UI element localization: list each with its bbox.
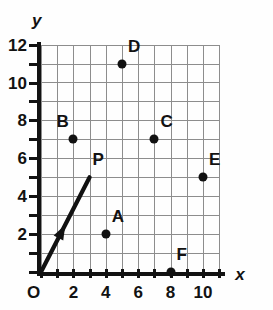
- y-axis-tick: [29, 214, 38, 217]
- point-label-a: A: [112, 208, 124, 225]
- point-label-b: B: [56, 113, 68, 130]
- coordinate-plane-figure: y x O 24681012246810ABCDEFP: [0, 0, 273, 310]
- vector-label-p: P: [93, 151, 104, 168]
- point-label-f: F: [177, 246, 187, 263]
- y-axis-tick-label: 4: [0, 188, 27, 205]
- x-axis-tick-label: 10: [190, 284, 216, 301]
- y-axis-tick: [29, 100, 38, 103]
- y-axis-tick: [29, 271, 38, 274]
- vector-arrowhead-p: [54, 225, 66, 241]
- x-axis-tick: [89, 269, 92, 278]
- x-axis-tick: [202, 269, 205, 278]
- x-axis-tick: [56, 269, 59, 278]
- point-label-e: E: [209, 151, 220, 168]
- y-axis-tick-label: 2: [0, 226, 27, 243]
- data-point-f: [166, 268, 175, 277]
- y-axis-tick: [29, 195, 38, 198]
- y-axis-tick: [29, 119, 38, 122]
- x-axis-tick: [121, 269, 124, 278]
- data-point-a: [101, 230, 110, 239]
- x-axis-tick-label: 8: [158, 284, 184, 301]
- x-axis-tick-label: 6: [125, 284, 151, 301]
- y-axis-tick: [29, 176, 38, 179]
- x-axis-tick: [72, 269, 75, 278]
- x-axis-tick-label: 2: [60, 284, 86, 301]
- x-axis-tick-label: 4: [93, 284, 119, 301]
- y-axis-tick: [29, 44, 38, 47]
- y-axis-tick-label: 10: [0, 75, 27, 92]
- y-axis-tick-label: 8: [0, 112, 27, 129]
- x-axis-tick: [153, 269, 156, 278]
- data-point-b: [69, 135, 78, 144]
- x-axis-tick: [40, 269, 43, 278]
- x-axis-tick: [105, 269, 108, 278]
- x-axis-tick: [186, 269, 189, 278]
- y-axis-tick: [29, 157, 38, 160]
- y-axis-tick-label: 12: [0, 37, 27, 54]
- y-axis-tick: [29, 82, 38, 85]
- y-axis-tick: [29, 63, 38, 66]
- data-point-c: [150, 135, 159, 144]
- y-axis-tick: [29, 138, 38, 141]
- y-axis-tick-label: 6: [0, 150, 27, 167]
- data-point-e: [199, 173, 208, 182]
- point-label-c: C: [160, 113, 172, 130]
- y-axis-tick: [29, 252, 38, 255]
- x-axis-tick: [137, 269, 140, 278]
- x-axis-tick: [218, 269, 221, 278]
- data-point-d: [118, 59, 127, 68]
- point-label-d: D: [128, 38, 140, 55]
- y-axis-tick: [29, 233, 38, 236]
